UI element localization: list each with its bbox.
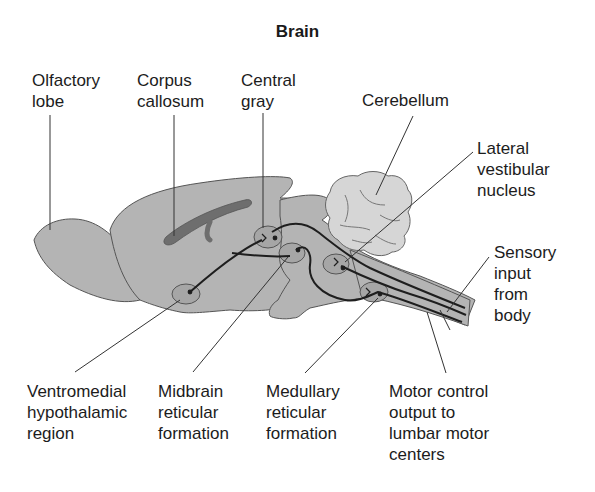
label-lateral-vestibular-nucleus: Lateral vestibular nucleus xyxy=(477,138,550,201)
label-midbrain-reticular-formation: Midbrain reticular formation xyxy=(158,381,229,444)
label-ventromedial-hypothalamic-region: Ventromedial hypothalamic region xyxy=(27,381,127,444)
label-motor-control-output: Motor control output to lumbar motor cen… xyxy=(389,381,489,465)
label-central-gray: Central gray xyxy=(241,70,296,112)
label-medullary-reticular-formation: Medullary reticular formation xyxy=(266,381,340,444)
label-corpus-callosum: Corpus callosum xyxy=(137,70,204,112)
label-olfactory-lobe: Olfactory lobe xyxy=(32,70,100,112)
fornix-shape xyxy=(207,222,210,240)
label-sensory-input: Sensory input from body xyxy=(494,242,556,326)
midbrain-reticular-nucleus xyxy=(279,243,305,263)
label-cerebellum: Cerebellum xyxy=(362,90,449,111)
